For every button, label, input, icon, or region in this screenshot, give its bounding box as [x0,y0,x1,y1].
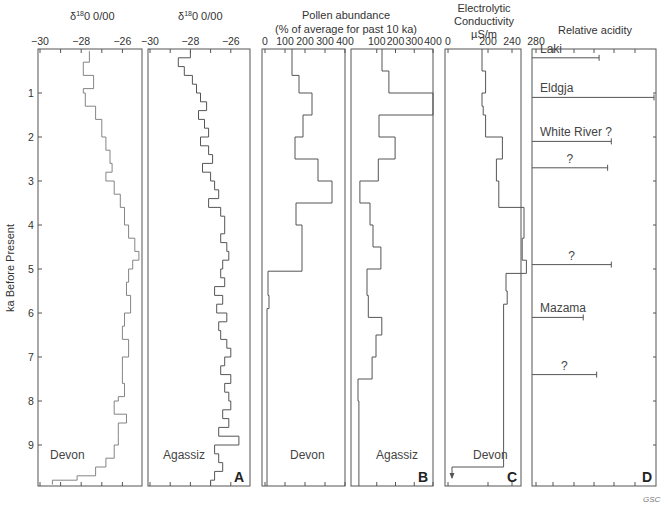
acidity-event-label: Laki [540,42,562,56]
y-tick-label: 5 [28,263,34,275]
y-tick-label: 9 [28,439,34,451]
y-tick-label: 8 [28,395,34,407]
pollen-title-line2: (% of average for past 10 ka) [275,23,417,35]
devon-conductivity-line [452,49,526,467]
site-label-devon-c: Devon [473,448,508,462]
panel-b-devon-xtick-label: 0 [262,35,268,47]
y-tick-label: 6 [28,307,34,319]
devon-d18o-line [52,51,138,484]
cond-title-line2: Conductivity [454,15,514,27]
panel-c-xtick-label: 240 [503,35,521,47]
panel-letter-a: A [234,469,244,485]
acidity-event-label: ? [561,359,568,373]
pollen-title-line1: Pollen abundance [302,9,390,21]
panel-b-agassiz-xtick-label: 300 [405,35,423,47]
panel-c-xtick-label: 200 [479,35,497,47]
panel-a-agassiz-xtick-label: −26 [222,35,240,47]
acidity-event-label: ? [568,249,575,263]
site-label-agassiz-a: Agassiz [163,448,205,462]
site-label-agassiz-b: Agassiz [376,448,418,462]
acidity-title: Relative acidity [558,24,632,36]
panel-b-devon-xtick-label: 200 [296,35,314,47]
panel-b-agassiz-xtick-label: 400 [424,35,442,47]
agassiz-d18o-line [178,51,239,484]
panel-letter-c: C [507,469,517,485]
acidity-event-label: White River ? [540,125,612,139]
site-label-devon-a: Devon [50,448,85,462]
panel-a-agassiz-xtick-label: −30 [141,35,159,47]
acidity-event-label: Mazama [540,301,586,315]
panel-b-devon-xtick-label: 400 [336,35,354,47]
panel-a-devon-xtick-label: −26 [113,35,131,47]
panel-letter-d: D [642,469,652,485]
y-tick-label: 2 [28,131,34,143]
paleoclimate-figure: δ180 0/00 δ180 0/00 Pollen abundance (% … [0,0,668,512]
plot-series: LakiEldgjaWhite River ???Mazama? [52,42,654,486]
cond-title-line1: Electrolytic [457,2,511,14]
acidity-event-label: Eldgja [540,81,574,95]
panel-a-agassiz-xtick-label: −28 [181,35,199,47]
axes: 123456789−30−30−28−28−26−260100200300400… [28,35,656,486]
y-tick-label: 4 [28,219,34,231]
acidity-event-label: ? [566,152,573,166]
y-axis-label: ka Before Present [4,224,16,312]
arrow-down-icon [450,473,455,479]
site-label-devon-b: Devon [290,448,325,462]
panel-b-devon-xtick-label: 100 [276,35,294,47]
credit-gsc: GSC [643,495,661,504]
devon-pollen-line [267,49,332,486]
y-tick-label: 1 [28,87,34,99]
y-tick-label: 3 [28,175,34,187]
d18o-title-agassiz: δ180 0/00 [178,10,223,22]
panel-c-xtick-label: 0 [445,35,451,47]
panel-d-frame [532,49,656,486]
panel-b-agassiz-xtick-label: 200 [387,35,405,47]
agassiz-pollen-line [358,49,433,486]
panel-b-devon-xtick-label: 300 [316,35,334,47]
panel-a-devon-xtick-label: −28 [72,35,90,47]
panel-a-devon-xtick-label: −30 [31,35,49,47]
d18o-title-devon: δ180 0/00 [70,10,115,22]
panel-b-agassiz-xtick-label: 100 [368,35,386,47]
panel-letter-b: B [418,469,428,485]
y-tick-label: 7 [28,351,34,363]
